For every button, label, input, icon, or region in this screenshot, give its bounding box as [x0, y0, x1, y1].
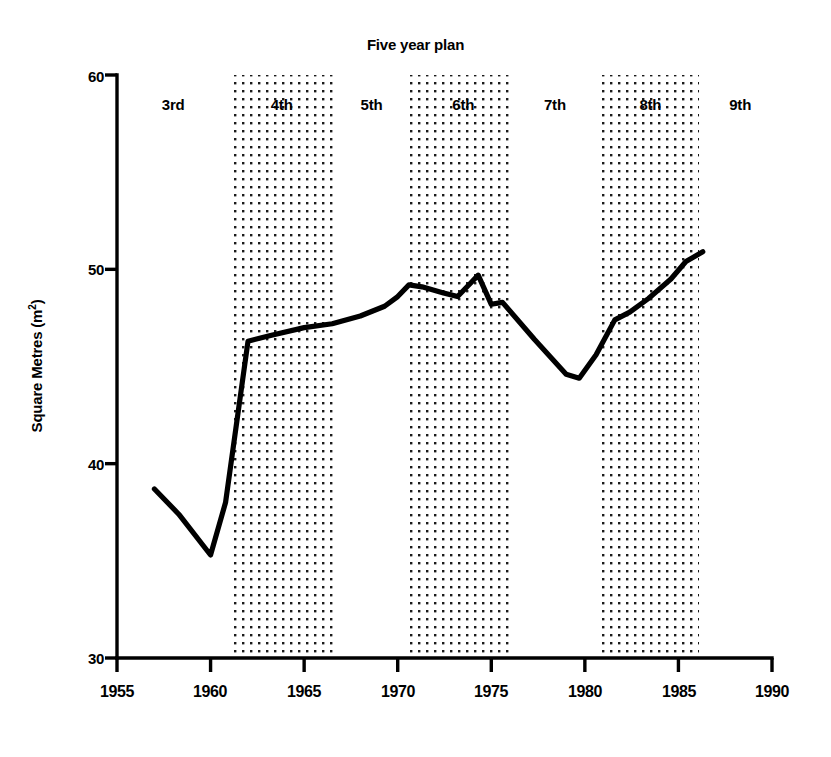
y-tick-label-40: 40 — [66, 456, 104, 473]
line-chart-plot — [0, 0, 831, 757]
x-tick-label-1965: 1965 — [287, 683, 321, 701]
plan-label-9th: 9th — [729, 96, 751, 113]
x-tick-label-1975: 1975 — [474, 683, 508, 701]
chart-title: Five year plan — [0, 36, 831, 53]
x-tick-label-1955: 1955 — [100, 683, 134, 701]
x-tick-label-1980: 1980 — [568, 683, 602, 701]
y-tick-label-60: 60 — [66, 68, 104, 85]
chart-container: Five year plan Square Metres (m2) 60 50 … — [0, 0, 831, 757]
plan-label-6th: 6th — [452, 96, 474, 113]
plan-label-3rd: 3rd — [162, 96, 185, 113]
plan-label-8th: 8th — [639, 96, 661, 113]
y-axis-title-exponent: 2 — [27, 304, 38, 309]
plan-band-8th — [600, 75, 699, 658]
y-axis-title: Square Metres (m2) — [27, 300, 45, 433]
y-tick-label-30: 30 — [66, 650, 104, 667]
y-axis-ticks — [105, 75, 117, 658]
plan-label-4th: 4th — [271, 96, 293, 113]
plan-label-5th: 5th — [361, 96, 383, 113]
plan-label-7th: 7th — [544, 96, 566, 113]
y-axis-title-text: Square Metres (m — [28, 310, 45, 433]
x-tick-label-1970: 1970 — [381, 683, 415, 701]
x-axis-ticks — [117, 658, 772, 672]
shaded-plan-bands — [229, 75, 699, 658]
x-tick-label-1985: 1985 — [662, 683, 696, 701]
y-tick-label-50: 50 — [66, 261, 104, 278]
x-tick-label-1960: 1960 — [193, 683, 227, 701]
x-tick-label-1990: 1990 — [755, 683, 789, 701]
y-axis-title-paren: ) — [28, 300, 45, 305]
plan-band-6th — [409, 75, 514, 658]
